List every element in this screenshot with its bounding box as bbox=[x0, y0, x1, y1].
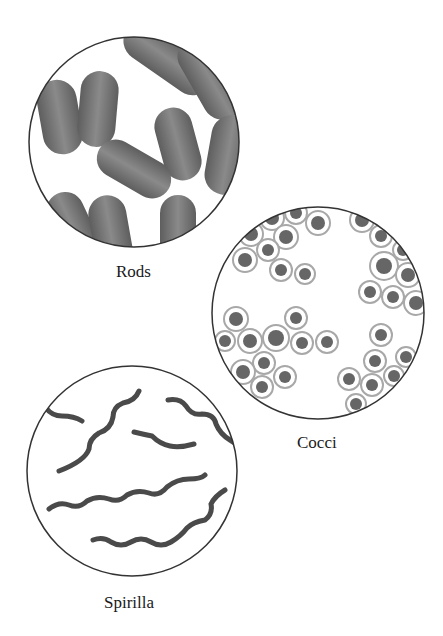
spirilla-cells bbox=[46, 391, 242, 545]
bacteria-shapes-diagram bbox=[0, 0, 443, 636]
cocci-panel bbox=[212, 202, 428, 419]
rods-panel bbox=[29, 13, 255, 278]
cocci-label: Cocci bbox=[297, 433, 337, 453]
spirilla-label: Spirilla bbox=[104, 593, 154, 613]
rods-label: Rods bbox=[116, 262, 151, 282]
rod-cells bbox=[34, 13, 255, 278]
spirilla-panel bbox=[27, 366, 242, 576]
